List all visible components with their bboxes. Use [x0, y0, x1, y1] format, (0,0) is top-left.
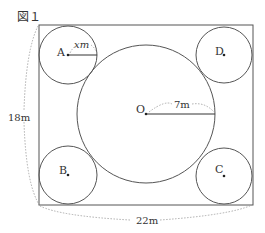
- label-width: 22m: [136, 215, 159, 226]
- label-small-radius: xm: [74, 39, 89, 50]
- label-b: B: [59, 164, 67, 177]
- label-a: A: [56, 46, 66, 59]
- figure-title: 図１: [17, 10, 41, 24]
- center-o-dot: [145, 113, 148, 116]
- center-a-dot: [67, 54, 70, 57]
- label-c: C: [215, 163, 223, 176]
- label-big-radius: 7m: [174, 99, 190, 110]
- figure-diagram: 図１ A xm D O 7m B C 18m 22m: [0, 0, 265, 233]
- label-o: O: [136, 103, 145, 116]
- label-height: 18m: [8, 112, 31, 123]
- label-d: D: [215, 45, 224, 58]
